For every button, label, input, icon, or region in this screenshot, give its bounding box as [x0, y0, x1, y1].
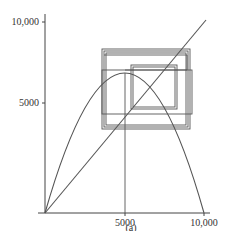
x-tick-label-10000: 10,000	[190, 217, 218, 228]
y-tick-label-10000: 10,000	[12, 16, 40, 27]
cobweb-chart: 10,000 5000 5000 10,000 (a)	[0, 0, 233, 231]
figure-caption: (a)	[125, 222, 136, 231]
y-tick-label-5000: 5000	[19, 97, 39, 108]
cobweb-iterations	[102, 49, 192, 129]
logistic-curve	[45, 73, 204, 213]
